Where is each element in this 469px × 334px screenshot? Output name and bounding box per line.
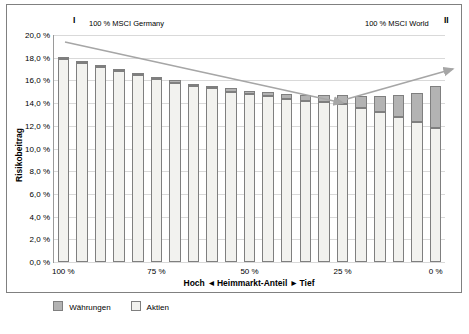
legend-item-waehrungen: Währungen <box>53 301 111 312</box>
bar <box>244 91 256 262</box>
bar <box>411 93 423 262</box>
bar-segment-waehrungen <box>318 95 330 102</box>
marker-ii-label: II <box>444 15 449 25</box>
bar-segment-waehrungen <box>225 88 237 91</box>
bar-segment-aktien <box>393 117 405 262</box>
y-axis-tick-label: 0,0 % <box>30 258 50 267</box>
bar-segment-waehrungen <box>151 77 163 79</box>
y-axis-tick-label: 4,0 % <box>30 212 50 221</box>
bar <box>355 96 367 262</box>
bar-segment-waehrungen <box>430 86 442 128</box>
bar-segment-aktien <box>206 88 218 262</box>
bar <box>58 58 70 262</box>
bar <box>132 74 144 262</box>
bar-segment-waehrungen <box>337 95 349 104</box>
right-arrow-icon: ► <box>290 278 297 288</box>
gridline <box>54 58 445 59</box>
x-axis-tick-label: 75 % <box>147 267 165 276</box>
chart-legend: Währungen Aktien <box>53 301 445 312</box>
bar-segment-aktien <box>374 112 386 262</box>
bar-segment-aktien <box>169 83 181 262</box>
y-axis-tick-label: 8,0 % <box>30 167 50 176</box>
bar-segment-aktien <box>337 104 349 262</box>
bar <box>393 95 405 262</box>
bar-segment-aktien <box>318 102 330 262</box>
bar-segment-aktien <box>430 128 442 262</box>
bar-segment-aktien <box>188 86 200 262</box>
bar-segment-waehrungen <box>206 86 218 88</box>
legend-label: Währungen <box>69 303 110 312</box>
y-axis-tick-label: 10,0 % <box>25 144 50 153</box>
legend-label: Aktien <box>147 303 169 312</box>
bar <box>262 92 274 262</box>
bar <box>188 84 200 262</box>
y-axis-tick-label: 16,0 % <box>25 76 50 85</box>
y-axis-tick-label: 6,0 % <box>30 189 50 198</box>
gridline <box>54 35 445 36</box>
bar-segment-waehrungen <box>355 96 367 107</box>
y-axis-tick-label: 14,0 % <box>25 99 50 108</box>
bar-segment-aktien <box>281 99 293 262</box>
chart-frame: Risikobeitrag I II 100 % MSCI Germany 10… <box>6 4 462 293</box>
y-axis-tick-label: 18,0 % <box>25 53 50 62</box>
x-axis-left-label: Hoch <box>184 278 205 288</box>
bar-segment-waehrungen <box>281 94 293 99</box>
caption-left: 100 % MSCI Germany <box>89 19 164 28</box>
bar-segment-aktien <box>300 101 312 262</box>
bar <box>225 88 237 262</box>
bar-segment-waehrungen <box>262 92 274 97</box>
bar-segment-waehrungen <box>244 91 256 94</box>
bar <box>206 86 218 262</box>
bar-segment-aktien <box>76 63 88 262</box>
x-axis-tick-label: 25 % <box>333 267 351 276</box>
x-axis-center-label: Heimmarkt-Anteil <box>217 278 287 288</box>
bar-segment-aktien <box>151 79 163 262</box>
bar-segment-aktien <box>58 59 70 262</box>
marker-i-label: I <box>73 15 75 25</box>
bar <box>300 95 312 262</box>
bar <box>281 94 293 262</box>
bar <box>151 77 163 262</box>
bar-segment-aktien <box>262 96 274 262</box>
gridline <box>54 262 445 263</box>
bar <box>374 96 386 262</box>
bar-segment-aktien <box>411 122 423 262</box>
legend-swatch-icon <box>53 301 63 311</box>
caption-right: 100 % MSCI World <box>365 19 429 28</box>
bar-segment-waehrungen <box>300 95 312 101</box>
x-axis-title: Hoch ◄ Heimmarkt-Anteil ► Tief <box>53 278 445 288</box>
bar <box>95 66 107 262</box>
bar-segment-waehrungen <box>393 95 405 117</box>
bar-segment-waehrungen <box>58 57 70 59</box>
bar-segment-waehrungen <box>188 84 200 86</box>
bar-segment-waehrungen <box>374 96 386 112</box>
bar <box>337 95 349 262</box>
bar <box>430 86 442 262</box>
bar-segment-aktien <box>113 71 125 262</box>
x-axis-tick-label: 0 % <box>429 267 443 276</box>
legend-item-aktien: Aktien <box>131 301 169 312</box>
y-axis-tick-label: 2,0 % <box>30 235 50 244</box>
x-axis-tick-label: 100 % <box>52 267 75 276</box>
y-axis-tick-label: 20,0 % <box>25 31 50 40</box>
bar-segment-waehrungen <box>113 69 125 71</box>
left-arrow-icon: ◄ <box>207 278 214 288</box>
bar-segment-aktien <box>225 92 237 262</box>
bar-segment-aktien <box>355 108 367 262</box>
bar <box>169 80 181 262</box>
bar <box>76 62 88 262</box>
bar <box>113 70 125 262</box>
bar-segment-waehrungen <box>95 65 107 67</box>
bar <box>318 95 330 262</box>
bar-segment-waehrungen <box>132 73 144 75</box>
y-axis-tick-label: 12,0 % <box>25 121 50 130</box>
bar-segment-waehrungen <box>169 80 181 82</box>
bar-segment-waehrungen <box>76 61 88 63</box>
x-axis-tick-label: 50 % <box>240 267 258 276</box>
bar-segment-aktien <box>95 67 107 262</box>
bar-segment-waehrungen <box>411 93 423 123</box>
plot-area: 20,0 %18,0 %16,0 %14,0 %12,0 %10,0 %8,0 … <box>53 35 445 263</box>
x-axis-right-label: Tief <box>300 278 315 288</box>
legend-swatch-icon <box>131 301 141 311</box>
y-axis-title: Risikobeitrag <box>11 100 27 210</box>
